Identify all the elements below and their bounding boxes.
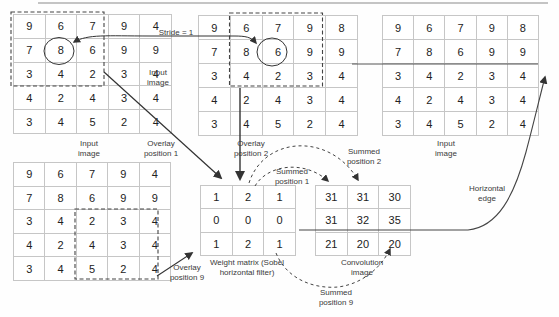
overlay-position-2-label: Overlay position 2 — [229, 139, 273, 158]
grid-cell: 5 — [77, 110, 109, 134]
grid-cell: 6 — [45, 163, 76, 187]
grid-cell: 4 — [231, 112, 263, 136]
grid-cell: 4 — [45, 210, 76, 234]
horizontal-edge-label: Horizontal edge — [459, 184, 515, 203]
grid-cell: 9 — [14, 163, 45, 187]
grid-cell: 9 — [109, 15, 141, 39]
grid-cell: 2 — [477, 112, 508, 136]
grid-cell: 4 — [445, 88, 476, 112]
grid-cell: 3 — [294, 64, 326, 88]
grid-cell: 3 — [108, 210, 139, 234]
grid-cell: 4 — [140, 86, 172, 110]
grid-cell: 1 — [201, 186, 233, 209]
grid-cell: 2 — [231, 88, 263, 112]
grid-cell: 3 — [14, 257, 45, 281]
grid-cell: 2 — [77, 63, 109, 87]
grid-cell: 8 — [508, 16, 539, 40]
grid-cell: 4 — [383, 88, 414, 112]
grid-cell: 4 — [140, 163, 171, 187]
grid-cell: 4 — [14, 86, 46, 110]
grid-cell: 2 — [414, 88, 445, 112]
summed-position-9-label: Summed position 9 — [308, 288, 364, 307]
grid-cell: 31 — [348, 186, 380, 209]
weight-matrix-label: Weight matrix (Sobel horizontal filter) — [195, 258, 299, 277]
grid-cell: 6 — [231, 16, 263, 40]
grid-cell: 4 — [414, 112, 445, 136]
grid-cell: 31 — [316, 209, 348, 232]
grid-cell: 7 — [263, 16, 295, 40]
grid-cell: 4 — [326, 64, 358, 88]
overlay-position-1-label: Overlay position 1 — [139, 139, 183, 158]
grid-cell: 2 — [445, 64, 476, 88]
summed-position-1-label: Summed position 1 — [264, 167, 320, 186]
grid-cell: 7 — [77, 163, 108, 187]
grid-cell: 4 — [414, 64, 445, 88]
grid-cell: 2 — [263, 64, 295, 88]
grid-cell: 5 — [77, 257, 108, 281]
grid-cell: 3 — [477, 64, 508, 88]
grid-cell: 5 — [263, 112, 295, 136]
grid-cell: 6 — [414, 16, 445, 40]
grid-cell: 3 — [109, 63, 141, 87]
grid-cell: 6 — [77, 39, 109, 63]
grid-cell: 0 — [201, 209, 233, 232]
grid-cell: 4 — [326, 88, 358, 112]
grid-cell: 4 — [231, 64, 263, 88]
grid-cell: 4 — [508, 112, 539, 136]
grid-cell: 4 — [46, 63, 78, 87]
grid-cell: 9 — [14, 15, 46, 39]
grid-cell: 7 — [14, 187, 45, 211]
grid-cell: 6 — [445, 40, 476, 64]
grid-cell: 3 — [108, 234, 139, 258]
grid-cell: 2 — [46, 86, 78, 110]
grid-cell: 4 — [46, 110, 78, 134]
grid-cell: 0 — [233, 209, 265, 232]
grid-cell: 6 — [46, 15, 78, 39]
grid-cell: 1 — [201, 233, 233, 256]
stride-label: Stride = 1 — [149, 28, 203, 38]
grid-cell: 3 — [14, 110, 46, 134]
grid-cell: 9 — [294, 16, 326, 40]
grid-cell: 3 — [14, 210, 45, 234]
grid-cell: 35 — [379, 209, 411, 232]
grid-cell: 1 — [264, 186, 296, 209]
grid-cell: 20 — [379, 233, 411, 256]
grid-cell: 4 — [199, 88, 231, 112]
input-image-a-label: Input image — [72, 139, 106, 158]
input-image-b-label: Input image — [141, 68, 175, 87]
grid-cell: 4 — [77, 234, 108, 258]
grid-cell: 7 — [77, 15, 109, 39]
convolution-image-grid: 313130313235212020 — [315, 185, 411, 256]
grid-cell: 4 — [140, 110, 172, 134]
grid-cell: 4 — [508, 88, 539, 112]
grid-cell: 8 — [326, 16, 358, 40]
grid-cell: 3 — [383, 112, 414, 136]
grid-cell: 2 — [77, 210, 108, 234]
grid-cell: 9 — [109, 39, 141, 63]
grid-cell: 30 — [379, 186, 411, 209]
grid-cell: 9 — [326, 40, 358, 64]
grid-cell: 2 — [233, 233, 265, 256]
grid-cell: 7 — [14, 39, 46, 63]
grid-cell: 7 — [445, 16, 476, 40]
grid-cell: 9 — [140, 39, 172, 63]
grid-cell: 4 — [140, 210, 171, 234]
grid-cell: 2 — [109, 110, 141, 134]
convolution-image-label: Convolution image — [332, 258, 392, 277]
grid-cell: 6 — [263, 40, 295, 64]
grid-cell: 3 — [383, 64, 414, 88]
weight-matrix-grid: 121000121 — [200, 185, 296, 256]
input-image-c-label: Input image — [429, 139, 463, 158]
grid-cell: 9 — [199, 16, 231, 40]
grid-cell: 20 — [348, 233, 380, 256]
grid-cell: 7 — [199, 40, 231, 64]
grid-cell: 9 — [108, 163, 139, 187]
grid-cell: 9 — [108, 187, 139, 211]
grid-cell: 1 — [264, 233, 296, 256]
grid-cell: 3 — [109, 86, 141, 110]
grid-cell: 3 — [199, 112, 231, 136]
grid-cell: 3 — [199, 64, 231, 88]
input-image-grid-d: 9679478699342344243434524 — [13, 162, 171, 281]
grid-cell: 6 — [77, 187, 108, 211]
summed-position-2-label: Summed position 2 — [336, 147, 392, 166]
